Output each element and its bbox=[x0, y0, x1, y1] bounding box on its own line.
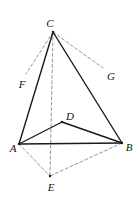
vertex-label-f: F bbox=[19, 79, 26, 90]
segment-cf bbox=[26, 32, 53, 74]
vertex-dot-c bbox=[52, 31, 54, 33]
dashed-segments bbox=[19, 32, 122, 176]
segment-ad bbox=[19, 122, 62, 144]
segment-ce bbox=[50, 32, 53, 176]
solid-segments bbox=[19, 32, 122, 144]
segment-ae bbox=[19, 144, 50, 176]
geometry-figure: ABCDEFG bbox=[0, 0, 139, 201]
segment-ab bbox=[19, 143, 122, 144]
segment-cg bbox=[53, 32, 103, 68]
vertex-label-d: D bbox=[66, 111, 74, 122]
vertex-label-g: G bbox=[107, 71, 115, 82]
vertex-label-a: A bbox=[10, 143, 17, 154]
vertex-dot-d bbox=[61, 121, 63, 123]
segment-bd bbox=[62, 122, 122, 143]
vertex-dot-e bbox=[49, 175, 51, 177]
geometry-canvas bbox=[0, 0, 139, 201]
vertex-dot-a bbox=[18, 143, 20, 145]
vertex-dots bbox=[18, 31, 123, 177]
vertex-label-c: C bbox=[46, 18, 53, 29]
segment-be bbox=[50, 143, 122, 176]
segment-bc bbox=[53, 32, 122, 143]
vertex-dot-b bbox=[121, 142, 123, 144]
vertex-label-b: B bbox=[126, 142, 133, 153]
vertex-label-e: E bbox=[48, 182, 55, 193]
